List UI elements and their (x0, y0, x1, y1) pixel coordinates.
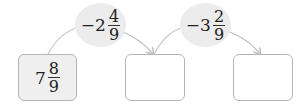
start-mixed-number: 7 8 9 (35, 60, 60, 95)
whole-part: 2 (95, 15, 106, 35)
denominator: 9 (214, 26, 224, 43)
operation-oval-1: − 2 4 9 (75, 3, 126, 47)
fraction: 2 9 (213, 8, 225, 43)
answer-box-2[interactable] (233, 54, 293, 101)
operation-2-value: − 3 2 9 (186, 8, 225, 43)
arrow-2-head (224, 30, 260, 54)
start-value-box: 7 8 9 (18, 54, 77, 101)
answer-box-1[interactable] (125, 54, 185, 101)
numerator: 2 (213, 8, 225, 26)
whole-part: 7 (35, 68, 46, 88)
operation-oval-2: − 3 2 9 (180, 3, 231, 47)
denominator: 9 (109, 26, 119, 43)
operation-1-value: − 2 4 9 (81, 8, 120, 43)
fraction: 4 9 (108, 8, 120, 43)
numerator: 8 (48, 60, 60, 78)
minus-sign: − (186, 15, 200, 35)
minus-sign: − (81, 15, 95, 35)
denominator: 9 (49, 78, 59, 95)
whole-part: 3 (200, 15, 211, 35)
fraction: 8 9 (48, 60, 60, 95)
numerator: 4 (108, 8, 120, 26)
